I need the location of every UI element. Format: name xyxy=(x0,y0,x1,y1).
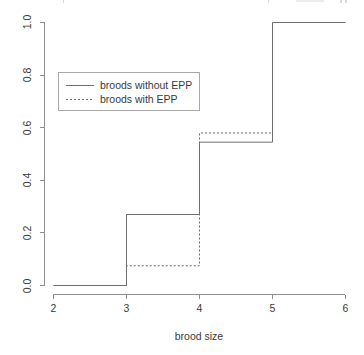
x-tick-label-3: 3 xyxy=(124,302,130,314)
x-tick-label-2: 2 xyxy=(51,302,57,314)
legend: broods without EPP broods with EPP xyxy=(59,73,200,111)
x-axis: 2 3 4 5 6 brood size xyxy=(51,295,349,343)
legend-label-without-epp: broods without EPP xyxy=(100,79,192,91)
plot-canvas: 1.0 0.8 0.6 0.4 0.2 0.0 2 3 4 5 6 brood … xyxy=(0,0,364,355)
top-edge-artifact xyxy=(63,0,347,3)
series-group xyxy=(54,23,346,286)
y-tick-label-0.4: 0.4 xyxy=(21,173,33,188)
ecdf-plot: 1.0 0.8 0.6 0.4 0.2 0.0 2 3 4 5 6 brood … xyxy=(0,0,364,355)
x-tick-label-6: 6 xyxy=(343,302,349,314)
x-tick-label-4: 4 xyxy=(197,302,203,314)
y-tick-label-1.0: 1.0 xyxy=(21,15,33,30)
y-axis: 1.0 0.8 0.6 0.4 0.2 0.0 xyxy=(21,15,45,294)
x-axis-title: brood size xyxy=(175,330,224,342)
legend-label-with-epp: broods with EPP xyxy=(100,93,178,105)
y-tick-label-0.0: 0.0 xyxy=(21,279,33,294)
x-tick-label-5: 5 xyxy=(270,302,276,314)
y-tick-label-0.8: 0.8 xyxy=(21,68,33,83)
series-broods-with-epp xyxy=(54,23,346,286)
y-tick-label-0.6: 0.6 xyxy=(21,121,33,136)
y-tick-label-0.2: 0.2 xyxy=(21,226,33,241)
